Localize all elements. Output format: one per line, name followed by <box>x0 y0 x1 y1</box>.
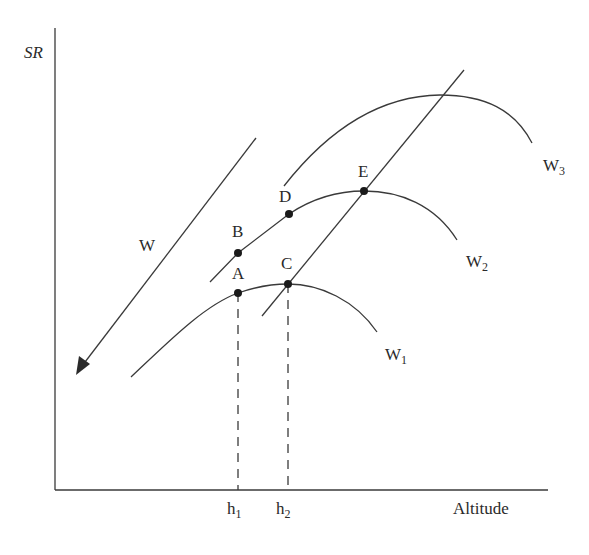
curve-w1 <box>131 284 377 377</box>
curve-w3-label: W3 <box>543 157 565 177</box>
y-axis-label: SR <box>24 44 43 61</box>
x-axis-label: Altitude <box>453 500 509 517</box>
weight-arrow-line <box>82 138 256 366</box>
point-d-label: D <box>279 188 291 205</box>
point-c <box>284 280 292 288</box>
point-a-label: A <box>232 265 244 282</box>
point-c-label: C <box>281 255 292 272</box>
specific-range-vs-altitude-diagram: SR Altitude h1 h2 W W1 W2 W3 A B C D E <box>0 0 589 555</box>
tick-h2: h2 <box>276 500 291 520</box>
point-d <box>285 210 293 218</box>
diagram-graphics <box>0 0 589 555</box>
curve-w1-label: W1 <box>385 346 407 366</box>
point-e-label: E <box>358 163 368 180</box>
tick-h1: h1 <box>227 500 242 520</box>
point-b-label: B <box>232 223 243 240</box>
curve-w2 <box>210 191 457 282</box>
weight-arrow-label: W <box>139 237 155 254</box>
point-b <box>234 249 242 257</box>
point-a <box>234 289 242 297</box>
curve-w3 <box>284 95 532 186</box>
point-e <box>360 187 368 195</box>
curve-w2-label: W2 <box>466 253 488 273</box>
